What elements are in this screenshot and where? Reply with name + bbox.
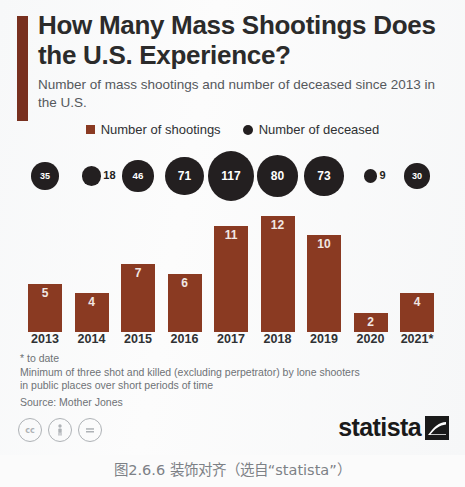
footnote-source: Source: Mother Jones [20, 396, 440, 410]
chart-column: 11711 [208, 146, 254, 332]
shootings-bar: 10 [307, 235, 341, 332]
footnote-asterisk: * to date [20, 352, 440, 366]
x-axis-tick-label: 2021* [394, 332, 440, 346]
deceased-bubble-wrapper: 117 [208, 146, 254, 206]
deceased-bubble-wrapper: 9 [348, 146, 394, 206]
chart-plot-area: 355184467716117118012731092304 [0, 146, 465, 332]
chart-footnotes: * to date Minimum of three shot and kill… [20, 352, 440, 409]
shootings-bar-value: 4 [414, 296, 421, 332]
shootings-bar-value: 6 [181, 277, 188, 332]
page-title: How Many Mass Shootings Does the U.S. Ex… [38, 10, 448, 70]
statista-wordmark: statista [338, 415, 421, 440]
legend-label-deceased: Number of deceased [259, 122, 380, 137]
creative-commons-icon: cc [18, 418, 42, 442]
deceased-bubble-value: 80 [271, 170, 284, 182]
deceased-bubble: 73 [304, 156, 343, 195]
chart-column: 184 [69, 146, 115, 332]
page-subtitle: Number of mass shootings and number of d… [38, 76, 438, 112]
chart-legend: Number of shootings Number of deceased [0, 122, 465, 137]
deceased-bubble: 71 [165, 157, 204, 196]
deceased-bubble: 46 [122, 160, 153, 191]
deceased-bubble-value: 73 [317, 170, 330, 182]
shootings-bar: 5 [28, 284, 62, 332]
footnote-definition-line2: in public places over short periods of t… [20, 379, 440, 393]
x-axis-tick-label: 2017 [208, 332, 254, 346]
x-axis-tick-label: 2014 [69, 332, 115, 346]
title-accent-bar [17, 16, 28, 121]
chart-column: 304 [394, 146, 440, 332]
chart-column: 467 [115, 146, 161, 332]
statista-logo: statista [338, 415, 449, 440]
deceased-bubble: 117 [208, 151, 254, 201]
legend-square-icon [86, 125, 95, 134]
attribution-icon [48, 418, 72, 442]
deceased-bubble-wrapper: 35 [22, 146, 68, 206]
shootings-bar-value: 4 [88, 296, 95, 332]
deceased-bubble-value: 117 [221, 170, 240, 182]
no-derivatives-icon [78, 418, 102, 442]
creative-commons-badges: cc [18, 418, 102, 442]
deceased-bubble-value: 35 [40, 172, 50, 181]
deceased-bubble-wrapper: 71 [162, 146, 208, 206]
statista-mark-icon [425, 416, 449, 440]
deceased-bubble-wrapper: 73 [301, 146, 347, 206]
shootings-bar-value: 5 [42, 287, 49, 332]
infographic-card: How Many Mass Shootings Does the U.S. Ex… [0, 0, 465, 455]
shootings-bar: 4 [75, 293, 109, 332]
shootings-bar-value: 2 [367, 316, 374, 332]
deceased-bubble: 18 [82, 166, 102, 186]
chart-column: 8012 [255, 146, 301, 332]
shootings-bar-value: 11 [225, 229, 238, 332]
shootings-bar: 7 [121, 264, 155, 332]
deceased-bubble-value: 30 [412, 172, 422, 181]
deceased-bubble: 35 [31, 162, 58, 189]
deceased-bubble: 80 [257, 155, 298, 196]
shootings-bar-value: 7 [135, 267, 142, 332]
chart-column: 716 [162, 146, 208, 332]
screenshot-root: How Many Mass Shootings Does the U.S. Ex… [0, 0, 465, 487]
legend-circle-icon [243, 125, 253, 135]
x-axis-tick-label: 2019 [301, 332, 347, 346]
legend-item-shootings: Number of shootings [86, 122, 221, 137]
chart-column: 7310 [301, 146, 347, 332]
deceased-bubble-wrapper: 46 [115, 146, 161, 206]
x-axis-tick-label: 2015 [115, 332, 161, 346]
deceased-bubble: 9 [364, 169, 378, 183]
x-axis-tick-label: 2016 [162, 332, 208, 346]
deceased-bubble-value: 18 [103, 170, 115, 181]
shootings-bar: 4 [400, 293, 434, 332]
shootings-bar: 6 [168, 274, 202, 332]
legend-label-shootings: Number of shootings [101, 122, 221, 137]
chart-column: 355 [22, 146, 68, 332]
shootings-bar: 11 [214, 226, 248, 332]
chart-column: 92 [348, 146, 394, 332]
figure-caption: 图2.6.6 装饰对齐（选自“statista”） [0, 458, 465, 479]
deceased-bubble-value: 71 [178, 170, 191, 182]
shootings-bar-value: 10 [317, 238, 330, 332]
footnote-definition-line1: Minimum of three shot and killed (exclud… [20, 366, 440, 380]
shootings-bar: 2 [354, 313, 388, 332]
deceased-bubble-value: 9 [379, 170, 385, 181]
x-axis-tick-label: 2013 [22, 332, 68, 346]
deceased-bubble: 30 [404, 163, 429, 188]
deceased-bubble-wrapper: 80 [255, 146, 301, 206]
x-axis-tick-label: 2020 [348, 332, 394, 346]
x-axis-tick-label: 2018 [255, 332, 301, 346]
chart-x-axis: 201320142015201620172018201920202021* [0, 332, 465, 350]
svg-text:cc: cc [25, 426, 35, 435]
deceased-bubble-wrapper: 18 [69, 146, 115, 206]
legend-item-deceased: Number of deceased [243, 122, 380, 137]
shootings-bar: 12 [261, 216, 295, 332]
shootings-bar-value: 12 [271, 219, 284, 332]
deceased-bubble-wrapper: 30 [394, 146, 440, 206]
deceased-bubble-value: 46 [133, 171, 144, 181]
